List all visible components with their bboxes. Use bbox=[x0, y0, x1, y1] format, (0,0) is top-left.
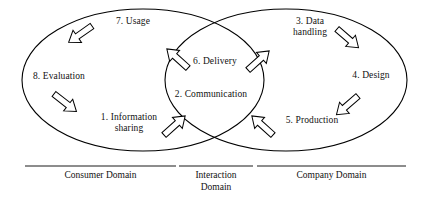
arrow-information-to-communication bbox=[159, 110, 190, 140]
node-label-information-sharing: 1. Information sharing bbox=[96, 112, 162, 134]
node-label-usage: 7. Usage bbox=[105, 16, 161, 27]
arrow-evaluation-to-information bbox=[49, 88, 81, 117]
node-label-communication: 2. Communication bbox=[163, 89, 259, 100]
domain-label-consumer: Consumer Domain bbox=[25, 170, 176, 182]
arrow-delivery-to-datahandling bbox=[243, 45, 274, 75]
interaction-cycle-diagram: 7. Usage 8. Evaluation 1. Information sh… bbox=[0, 0, 429, 206]
node-label-delivery: 6. Delivery bbox=[184, 56, 246, 67]
arrow-production-to-communication bbox=[247, 110, 278, 140]
node-label-data-handling: 3. Data handling bbox=[284, 16, 336, 38]
domain-label-interaction: Interaction Domain bbox=[179, 170, 253, 193]
node-label-production: 5. Production bbox=[276, 115, 348, 126]
arrow-datahandling-to-design bbox=[332, 23, 363, 53]
node-label-design: 4. Design bbox=[345, 70, 397, 81]
domain-label-company: Company Domain bbox=[257, 170, 406, 182]
node-label-evaluation: 8. Evaluation bbox=[22, 71, 96, 82]
